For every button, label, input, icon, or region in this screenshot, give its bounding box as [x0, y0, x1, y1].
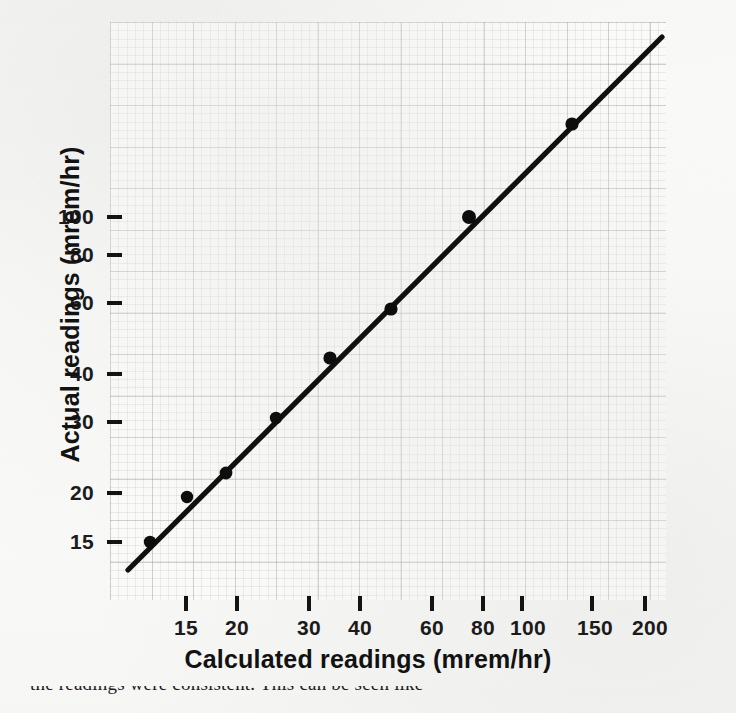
- x-tick-label-80: 80: [471, 616, 495, 640]
- x-tick-label-30: 30: [297, 616, 321, 640]
- caption-sliver: the readings were consistent. This can b…: [0, 686, 736, 713]
- x-tick-label-60: 60: [420, 616, 444, 640]
- caption-text: the readings were consistent. This can b…: [30, 686, 423, 695]
- x-tick-label-20: 20: [225, 616, 249, 640]
- plot-area-scan-shading: [110, 22, 666, 600]
- plot-area: [110, 22, 666, 600]
- x-tick-label-15: 15: [174, 616, 198, 640]
- x-tick-label-200: 200: [632, 616, 668, 640]
- x-tick-label-40: 40: [348, 616, 372, 640]
- y-axis-title: Actual readings (mrem/hr): [56, 25, 85, 585]
- scanned-figure: 100 80 60 40 30 20 15 15 20 30 40 60 80 …: [0, 0, 736, 713]
- x-tick-label-100: 100: [510, 616, 546, 640]
- x-axis-title: Calculated readings (mrem/hr): [0, 645, 736, 674]
- x-tick-label-150: 150: [577, 616, 613, 640]
